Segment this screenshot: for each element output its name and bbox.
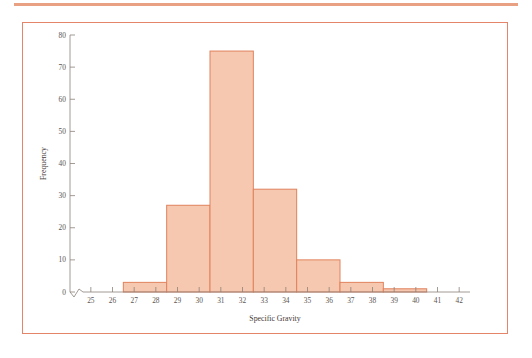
y-tick-label: 60 [59, 95, 67, 104]
x-tick-label: 38 [369, 296, 377, 305]
x-axis-title: Specific Gravity [249, 314, 300, 323]
y-tick-label: 30 [59, 191, 67, 200]
x-tick-label: 35 [304, 296, 312, 305]
y-tick-label: 40 [59, 159, 67, 168]
x-tick-label: 31 [217, 296, 225, 305]
x-tick-label: 26 [109, 296, 117, 305]
x-tick-label: 41 [434, 296, 442, 305]
y-tick-label: 70 [59, 63, 67, 72]
histogram-bar [253, 189, 296, 292]
x-tick-label: 42 [455, 296, 463, 305]
top-decorative-rule [14, 3, 518, 6]
y-axis-ticks: 01020304050607080 [59, 31, 75, 297]
histogram-bar [383, 289, 426, 292]
histogram-bar [297, 260, 340, 292]
histogram-svg: 252627282930313233343536373839404142 010… [23, 23, 509, 335]
histogram-bar [210, 51, 253, 292]
y-tick-label: 10 [59, 255, 67, 264]
x-tick-label: 34 [282, 296, 290, 305]
x-tick-label: 30 [195, 296, 203, 305]
x-tick-label: 25 [87, 296, 95, 305]
y-axis-title: Frequency [39, 147, 48, 180]
bars-group [123, 51, 426, 292]
y-tick-label: 50 [59, 127, 67, 136]
x-tick-label: 37 [347, 296, 355, 305]
histogram-bar [340, 282, 383, 292]
y-tick-label: 20 [59, 223, 67, 232]
x-tick-label: 36 [325, 296, 333, 305]
x-tick-label: 28 [152, 296, 160, 305]
y-tick-label: 0 [62, 288, 66, 297]
x-tick-label: 27 [130, 296, 138, 305]
y-tick-label: 80 [59, 31, 67, 40]
histogram-bar [167, 205, 210, 292]
x-tick-label: 40 [412, 296, 420, 305]
histogram-bar [123, 282, 166, 292]
x-tick-label: 32 [239, 296, 247, 305]
histogram-chart: 252627282930313233343536373839404142 010… [23, 23, 509, 335]
x-tick-label: 39 [390, 296, 398, 305]
figure-frame: 252627282930313233343536373839404142 010… [22, 22, 508, 334]
x-tick-label: 33 [260, 296, 268, 305]
x-tick-label: 29 [174, 296, 182, 305]
